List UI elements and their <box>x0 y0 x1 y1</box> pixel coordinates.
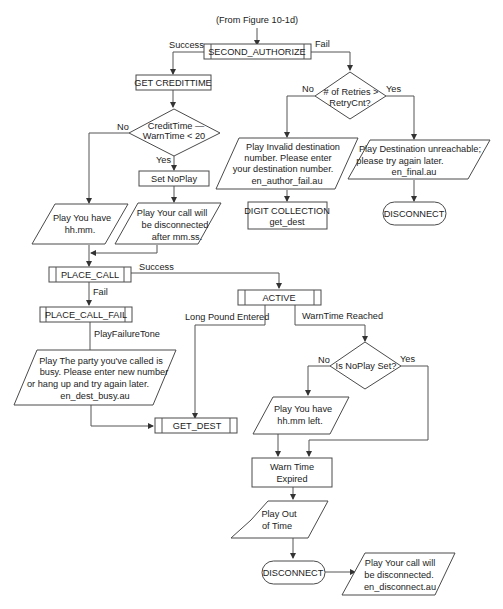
node-play-party-busy[interactable]: Play The party you've called is busy. Pl… <box>14 350 176 405</box>
edge-label-no: No <box>318 355 330 365</box>
warn-expired-line2: Expired <box>276 474 307 484</box>
node-set-noplay[interactable]: Set NoPlay <box>139 171 209 186</box>
node-play-you-have[interactable]: Play You have hh.mm. <box>32 204 128 244</box>
edge-label-no: No <box>302 84 314 94</box>
node-digit-collection[interactable]: DIGIT COLLECTION get_dest <box>244 202 330 229</box>
play-disc-after-line2: be disconnected <box>142 220 209 230</box>
out-of-time-line2: of Time <box>262 521 292 531</box>
node-get-dest[interactable]: GET_DEST <box>155 418 237 433</box>
unreachable-line1: Play Destination unreachable; <box>359 144 481 154</box>
digit-collection-line2: get_dest <box>269 217 305 227</box>
node-warn-time-expired[interactable]: Warn Time Expired <box>252 458 332 487</box>
digit-collection-line1: DIGIT COLLECTION <box>244 206 330 216</box>
hhmm-left-line2: hh.mm left. <box>277 416 322 426</box>
call-disc-line2: be disconnected. <box>364 570 433 580</box>
edge-label-success: Success <box>139 262 174 272</box>
invalid-line2: number. Please enter <box>244 153 331 163</box>
play-disc-after-line1: Play Your call will <box>137 208 207 218</box>
noplay-label: Is NoPlay Set? <box>336 361 397 371</box>
place-call-fail-label: PLACE_CALL_FAIL <box>45 310 127 320</box>
node-get-credittime[interactable]: GET CREDITTIME <box>134 75 211 90</box>
busy-line2: busy. Please enter new number <box>40 367 169 377</box>
entry-label: (From Figure 10-1d) <box>216 15 298 25</box>
busy-line4: en_dest_busy.au <box>60 391 129 401</box>
node-disconnect-bottom[interactable]: DISCONNECT <box>262 561 325 584</box>
invalid-line3: your destination number. <box>233 164 334 174</box>
edge-label-fail: Fail <box>315 39 330 49</box>
edge-label-no: No <box>117 122 129 132</box>
retries-line2: RetryCnt? <box>329 98 370 108</box>
busy-line3: or hang up and try again later. <box>27 379 149 389</box>
place-call-label: PLACE_CALL <box>61 270 119 280</box>
node-play-call-disconnected[interactable]: Play Your call will be disconnected. en_… <box>342 553 455 595</box>
retries-line1: # of Retries > <box>324 87 379 97</box>
node-second-authorize[interactable]: SECOND_AUTHORIZE <box>204 44 311 59</box>
set-noplay-label: Set NoPlay <box>151 174 197 184</box>
active-label: ACTIVE <box>262 293 295 303</box>
node-play-invalid-dest[interactable]: Play Invalid destination number. Please … <box>216 138 358 189</box>
node-disconnect-top[interactable]: DISCONNECT <box>383 202 446 225</box>
credit-decision-line1: CreditTime — <box>148 121 205 131</box>
second-authorize-label: SECOND_AUTHORIZE <box>208 47 306 57</box>
node-place-call-fail[interactable]: PLACE_CALL_FAIL <box>40 307 132 322</box>
node-play-dest-unreachable[interactable]: Play Destination unreachable; please try… <box>348 140 490 179</box>
invalid-line1: Play Invalid destination <box>246 142 340 152</box>
invalid-line4: en_author_fail.au <box>251 176 322 186</box>
disconnect-top-label: DISCONNECT <box>384 209 445 219</box>
warn-expired-line1: Warn Time <box>270 462 314 472</box>
out-of-time-line1: Play Out <box>261 509 297 519</box>
node-active[interactable]: ACTIVE <box>238 290 321 305</box>
edge-label-yes: Yes <box>156 155 171 165</box>
disconnect-bottom-label: DISCONNECT <box>263 568 324 578</box>
edge-label-yes: Yes <box>386 84 401 94</box>
unreachable-line3: en_final.au <box>392 167 437 177</box>
node-play-out-of-time[interactable]: Play Out of Time <box>231 501 328 538</box>
edge-label-yes: Yes <box>400 354 415 364</box>
node-place-call[interactable]: PLACE_CALL <box>49 267 131 282</box>
hhmm-left-line1: Play You have <box>274 404 332 414</box>
get-dest-label: GET_DEST <box>173 421 222 431</box>
flowchart: (From Figure 10-1d) SECOND_AUTHORIZE Suc… <box>0 0 503 609</box>
edge-label-warntime-reached: WarnTime Reached <box>302 311 383 321</box>
edge-label-play-failure-tone: PlayFailureTone <box>94 329 160 339</box>
unreachable-line2: please try again later. <box>356 156 443 166</box>
node-play-disconnected-after[interactable]: Play Your call will be disconnected afte… <box>115 203 221 244</box>
play-you-have-line2: hh.mm. <box>65 225 96 235</box>
get-credittime-label: GET CREDITTIME <box>134 78 211 88</box>
busy-line1: Play The party you've called is <box>39 356 163 366</box>
edge-label-fail: Fail <box>93 287 108 297</box>
call-disc-line1: Play Your call will <box>365 558 435 568</box>
play-you-have-line1: Play You have <box>53 213 111 223</box>
play-disc-after-line3: after mm.ss. <box>152 232 203 242</box>
edge-label-long-pound: Long Pound Entered <box>185 312 269 322</box>
credit-decision-line2: WarnTime < 20 <box>143 131 205 141</box>
node-credit-decision[interactable]: CreditTime — WarnTime < 20 <box>129 109 220 156</box>
node-play-hhmm-left[interactable]: Play You have hh.mm left. <box>253 397 349 434</box>
edge-label-success: Success <box>169 40 204 50</box>
call-disc-line3: en_disconnect.au <box>364 582 436 592</box>
node-noplay-decision[interactable]: Is NoPlay Set? <box>330 342 401 389</box>
node-retries-decision[interactable]: # of Retries > RetryCnt? <box>315 72 386 119</box>
